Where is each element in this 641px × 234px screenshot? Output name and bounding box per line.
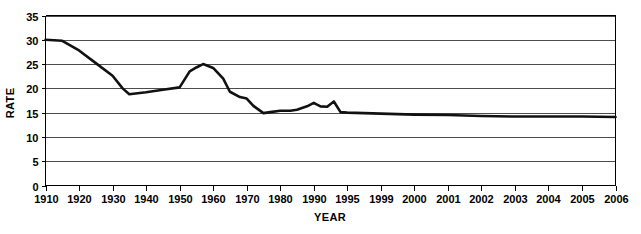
y-tick-label: 25	[26, 59, 38, 71]
y-tick-label: 15	[26, 108, 38, 120]
y-tick-label: 20	[26, 83, 38, 95]
x-tick-label: 1930	[101, 193, 125, 205]
rate-by-year-chart: 05101520253035 1910192019301940195019601…	[0, 0, 641, 234]
x-tick-label: 2003	[503, 193, 527, 205]
x-axis-tick-labels: 1910192019301940195019601970198019901995…	[34, 193, 628, 205]
y-tick-label: 0	[32, 181, 38, 193]
x-tick-label: 2000	[402, 193, 426, 205]
x-tick-label: 1960	[201, 193, 225, 205]
x-axis-title: YEAR	[314, 211, 346, 223]
rate-data-line	[46, 40, 616, 117]
x-tick-label: 1970	[235, 193, 259, 205]
x-tick-label: 1940	[134, 193, 158, 205]
x-tick-label: 2002	[469, 193, 493, 205]
y-axis-tick-labels: 05101520253035	[26, 11, 38, 193]
y-tick-label: 30	[26, 35, 38, 47]
chart-canvas: 05101520253035 1910192019301940195019601…	[0, 0, 641, 234]
x-tick-label: 1980	[268, 193, 292, 205]
y-tick-label: 5	[32, 156, 38, 168]
x-tick-label: 2006	[604, 193, 628, 205]
x-tick-label: 1990	[302, 193, 326, 205]
x-tick-label: 1995	[335, 193, 359, 205]
gridlines-group	[46, 17, 616, 162]
x-tick-label: 2004	[536, 193, 561, 205]
x-tick-label: 2001	[436, 193, 460, 205]
y-tick-label: 10	[26, 132, 38, 144]
x-tick-label: 2005	[570, 193, 594, 205]
x-tick-label: 1920	[67, 193, 91, 205]
y-tick-label: 35	[26, 11, 38, 23]
x-tick-label: 1910	[34, 193, 58, 205]
x-tick-label: 1950	[168, 193, 192, 205]
x-tick-label: 1999	[369, 193, 393, 205]
y-axis-title: RATE	[4, 88, 16, 119]
